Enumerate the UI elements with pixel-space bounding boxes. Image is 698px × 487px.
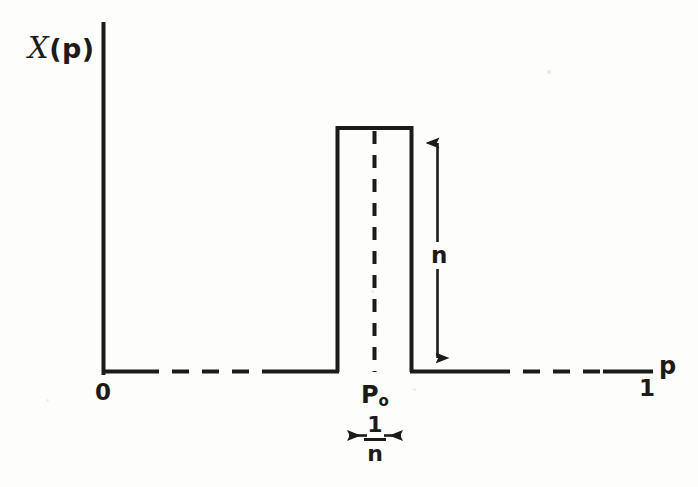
origin-tick-label: 0 <box>95 381 111 404</box>
pulse-width-denominator: n <box>360 442 390 465</box>
pulse-width-numerator: 1 <box>360 414 390 437</box>
pulse-centre-label: Po <box>361 383 389 407</box>
scan-speckle <box>371 290 374 293</box>
pulse-centre-label-base: P <box>361 381 379 409</box>
pulse-width-label: 1 n <box>360 414 390 465</box>
x-axis-label: p <box>659 354 676 378</box>
scan-speckle <box>413 388 416 391</box>
y-axis-label: X(p) <box>28 34 95 63</box>
y-axis-label-symbol: X <box>28 31 49 65</box>
pulse-height-label: n <box>429 242 449 269</box>
scan-speckle <box>547 70 551 74</box>
figure-drawing <box>0 0 698 487</box>
y-axis-label-arg: (p) <box>49 33 95 64</box>
figure-canvas: X(p) 0 Po 1 p n 1 n <box>0 0 698 487</box>
pulse-centre-label-subscript: o <box>379 392 389 410</box>
scan-speckle <box>46 399 49 402</box>
x-axis-tick-label-one: 1 <box>639 377 655 400</box>
